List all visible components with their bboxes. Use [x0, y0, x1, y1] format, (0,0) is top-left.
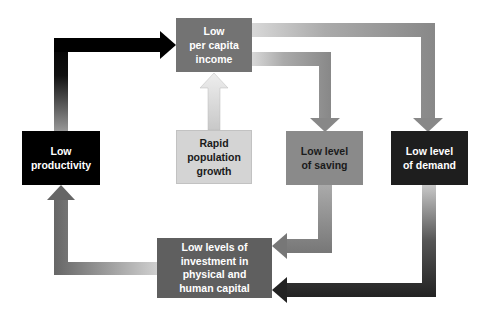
arrow-income-to-demand: [252, 23, 443, 132]
arrow-productivity-to-income: [54, 31, 176, 132]
node-label-line: population: [187, 150, 241, 164]
node-low-per-capita-income: Low per capita income: [176, 18, 252, 72]
node-low-level-of-saving: Low level of saving: [286, 131, 363, 185]
node-label-line: Low: [31, 144, 91, 158]
node-low-level-of-demand: Low level of demand: [391, 131, 468, 185]
node-label-line: Low level: [301, 144, 348, 158]
node-label-line: growth: [187, 164, 241, 178]
node-low-investment: Low levels of investment in physical and…: [157, 238, 272, 298]
node-label-line: of saving: [301, 158, 348, 172]
arrow-population-to-income: [200, 73, 228, 130]
node-label-line: Rapid: [187, 136, 241, 150]
arrow-investment-to-productivity: [47, 185, 157, 275]
node-label-line: Low levels of: [179, 241, 250, 255]
node-rapid-population-growth: Rapid population growth: [176, 130, 252, 184]
node-low-productivity: Low productivity: [22, 131, 100, 185]
node-label-line: human capital: [179, 282, 250, 296]
node-label-line: productivity: [31, 158, 91, 172]
arrow-saving-to-investment: [272, 185, 332, 259]
node-label-line: Low level: [403, 144, 456, 158]
node-label-line: physical and: [179, 268, 250, 282]
node-label-line: Low: [189, 24, 239, 38]
node-label-line: per capita: [189, 38, 239, 52]
node-label-line: income: [189, 52, 239, 66]
node-label-line: investment in: [179, 255, 250, 269]
node-label-line: of demand: [403, 158, 456, 172]
arrow-income-to-saving: [252, 52, 340, 132]
